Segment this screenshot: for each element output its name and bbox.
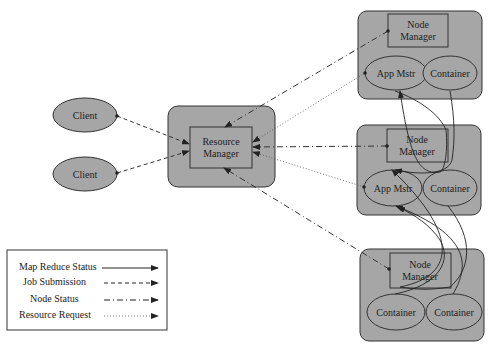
resource-manager-label-1: Resource (202, 136, 240, 147)
node-2-container-label: Container (430, 183, 470, 194)
client-1-label: Client (73, 110, 98, 121)
legend-label-node-status: Node Status (30, 293, 79, 304)
node-2-manager-label-2: Manager (399, 146, 435, 157)
legend-label-job-submission: Job Submission (23, 276, 86, 287)
node-2: Node Manager App Mstr Container (357, 125, 481, 215)
node-1-app-master-label: App Mstr (377, 68, 416, 79)
legend-label-resource-request: Resource Request (19, 309, 91, 320)
node-1-manager-label-2: Manager (400, 31, 436, 42)
yarn-architecture-diagram: Client Client Resource Manager Node Mana… (0, 0, 491, 348)
node-1-manager-label-1: Node (407, 19, 429, 30)
client-2: Client (53, 157, 117, 191)
node-1: Node Manager App Mstr Container (358, 11, 482, 99)
node-3-container-1-label: Container (376, 307, 416, 318)
resource-manager-label-2: Manager (203, 148, 239, 159)
legend-label-map-reduce-status: Map Reduce Status (19, 261, 97, 272)
legend: Map Reduce Status Job Submission Node St… (7, 250, 167, 330)
node-1-container-label: Container (430, 68, 470, 79)
client-2-label: Client (73, 169, 98, 180)
node-3-manager-label-1: Node (409, 259, 431, 270)
resource-manager: Resource Manager (168, 106, 275, 187)
node-3-container-2-label: Container (434, 307, 474, 318)
client-1: Client (53, 98, 117, 132)
